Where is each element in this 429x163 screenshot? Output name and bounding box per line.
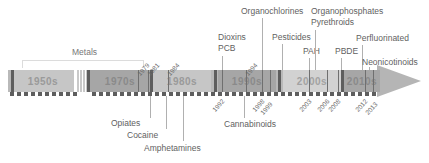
label-perfluorinated: Perfluorinated — [356, 33, 409, 43]
label-cannabinoids: Cannabinoids — [224, 119, 276, 129]
leader-line-organochlorines — [262, 18, 263, 71]
label-cocaine: Cocaine — [127, 130, 158, 140]
label-amphetamines: Amphetamines — [144, 143, 201, 153]
decade-segment-1950s: 1950s — [12, 70, 74, 92]
label-organochlorines: Organochlorines — [241, 6, 303, 16]
leader-line-organophosphates-pyrethroids — [315, 30, 316, 72]
year-label-2003: 2003 — [298, 98, 313, 113]
label-pesticides: Pesticides — [272, 32, 311, 42]
label-pcb: PCB — [218, 43, 235, 53]
decade-tick — [11, 70, 14, 92]
label-organophosphates: Organophosphates — [311, 6, 383, 16]
year-tick-2012 — [365, 70, 366, 92]
leader-line-cannabinoids — [244, 96, 245, 118]
year-tick-1992 — [222, 70, 223, 92]
year-label-1992: 1992 — [211, 98, 226, 113]
label-pah: PAH — [303, 46, 320, 56]
leader-line-amphetamines — [183, 96, 184, 141]
decade-tick — [87, 70, 90, 92]
label-pbde: PBDE — [335, 46, 358, 56]
leader-line-cocaine — [166, 96, 167, 129]
timeline-arrow-head — [377, 65, 421, 97]
label-opiates: Opiates — [111, 118, 140, 128]
decade-segment-2000s: 2000s — [283, 70, 341, 92]
year-tick-2013 — [373, 70, 374, 92]
timeline-figure: Metals Dioxins PCB Organochlorines Pesti… — [0, 0, 429, 163]
decade-segment-1980s: 1980s — [153, 70, 211, 92]
year-tick-1998 — [262, 70, 263, 92]
decade-tick — [341, 70, 344, 92]
year-tick-2006 — [327, 70, 328, 92]
leader-line-pesticides — [282, 44, 283, 72]
timeline-dashed-baseline — [8, 92, 380, 96]
timeline-bar: 1950s 1970s 1980s 1990s 2000s 2010s — [8, 70, 421, 92]
year-tick-1999 — [270, 70, 271, 92]
year-tick-2003 — [309, 70, 310, 92]
label-dioxins: Dioxins — [218, 32, 246, 42]
metals-bracket — [22, 60, 144, 68]
decade-tick — [278, 70, 281, 92]
leader-line-opiates — [150, 96, 151, 118]
year-tick-2008 — [338, 70, 339, 92]
label-pyrethroids: Pyrethroids — [311, 17, 354, 27]
label-metals: Metals — [72, 47, 97, 57]
decade-tick — [214, 70, 217, 92]
decade-segment-2010s: 2010s — [344, 70, 380, 92]
